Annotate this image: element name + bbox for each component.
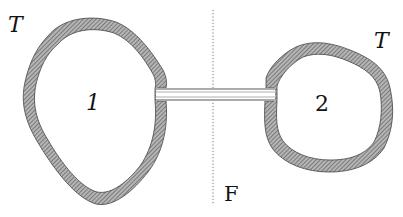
two-bubble-diagram: T T 1 2 F: [0, 0, 403, 217]
label-f: F: [224, 182, 239, 206]
label-t-left: T: [8, 12, 25, 37]
label-region-2: 2: [315, 91, 329, 116]
label-t-right: T: [374, 28, 391, 53]
label-region-1: 1: [86, 90, 100, 115]
connector-tube: [156, 88, 275, 101]
